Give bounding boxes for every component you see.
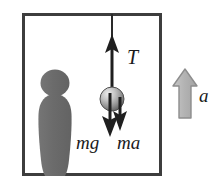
acceleration-arrow (173, 69, 197, 118)
observer-silhouette (38, 70, 71, 177)
weight-label: mg (76, 133, 99, 152)
person-head-icon (41, 70, 70, 97)
pseudo-force-label: ma (117, 133, 140, 152)
diagram-canvas (0, 0, 224, 194)
person-body-icon (38, 94, 71, 176)
free-body-diagram: T a mg ma (0, 0, 224, 194)
acceleration-label: a (199, 86, 209, 105)
tension-label: T (127, 47, 138, 67)
